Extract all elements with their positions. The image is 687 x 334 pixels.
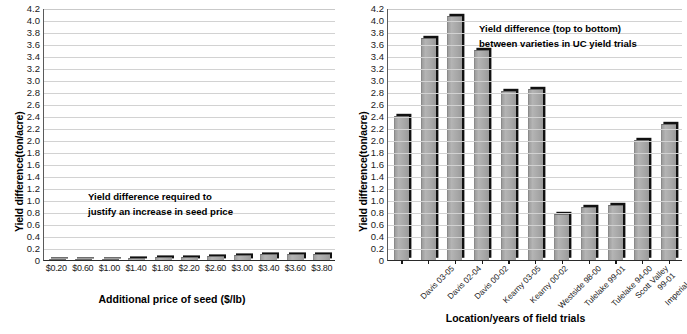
bar-slot xyxy=(309,9,335,260)
annotation-left-line1: Yield difference required to xyxy=(88,190,233,205)
bar[interactable] xyxy=(260,254,277,260)
y-tick-label: 2.4 xyxy=(371,112,384,122)
y-tick-label: 0.8 xyxy=(371,208,384,218)
bar[interactable] xyxy=(581,207,596,260)
y-tick-label: 2.0 xyxy=(371,136,384,146)
bar-slot xyxy=(388,9,415,260)
y-tick-label: 3.8 xyxy=(27,28,40,38)
y-tick-label: 2.0 xyxy=(27,136,40,146)
gridline xyxy=(388,237,682,238)
bar[interactable] xyxy=(181,257,198,260)
y-tick-label: 2.4 xyxy=(27,112,40,122)
gridline xyxy=(388,129,682,130)
gridline xyxy=(44,9,335,10)
bar-slot xyxy=(203,9,229,260)
gridline xyxy=(388,69,682,70)
gridline xyxy=(44,129,335,130)
bar[interactable] xyxy=(634,140,649,260)
gridline xyxy=(388,117,682,118)
x-tick-label: $1.80 xyxy=(149,263,176,273)
y-tick-label: 4.0 xyxy=(371,16,384,26)
x-tick-label: $1.40 xyxy=(123,263,150,273)
y-tick-label: 1.0 xyxy=(371,196,384,206)
y-tick-label: 1.8 xyxy=(371,148,384,158)
bar[interactable] xyxy=(102,259,119,261)
y-tick-label: 3.8 xyxy=(371,28,384,38)
bar-slot xyxy=(123,9,149,260)
y-tick-label: 3.6 xyxy=(371,40,384,50)
bar[interactable] xyxy=(75,259,92,260)
y-tick-label: 1.2 xyxy=(371,184,384,194)
annotation-right-line2: between varieties in UC yield trials xyxy=(479,37,637,52)
y-tick-label: 0.8 xyxy=(27,208,40,218)
x-tick-label: $3.80 xyxy=(308,263,335,273)
bar[interactable] xyxy=(313,254,330,260)
gridline xyxy=(44,165,335,166)
y-tick-label: 2.8 xyxy=(371,88,384,98)
gridline xyxy=(44,177,335,178)
plot-area-left xyxy=(43,9,335,261)
bar-slot xyxy=(655,9,682,260)
bar[interactable] xyxy=(421,38,436,260)
y-axis-ticks-right: 4.24.03.83.63.43.23.02.82.62.42.22.01.81… xyxy=(360,9,384,261)
bar[interactable] xyxy=(234,255,251,260)
bar-slot xyxy=(176,9,202,260)
gridline xyxy=(388,81,682,82)
gridline xyxy=(388,57,682,58)
bar[interactable] xyxy=(128,258,145,260)
x-axis-title-left: Additional price of seed ($/lb) xyxy=(0,293,344,305)
x-tick-label: $0.60 xyxy=(70,263,97,273)
y-tick-label: 0.2 xyxy=(371,244,384,254)
bar-slot xyxy=(282,9,308,260)
gridline xyxy=(44,57,335,58)
y-tick-label: 0 xyxy=(379,256,384,266)
x-axis-labels-left: $0.20$0.60$1.00$1.40$1.80$2.20$2.60$3.00… xyxy=(43,263,335,273)
bar[interactable] xyxy=(155,257,172,260)
y-tick-label: 3.6 xyxy=(27,40,40,50)
gridline xyxy=(388,105,682,106)
gridline xyxy=(44,33,335,34)
bar[interactable] xyxy=(49,259,66,260)
gridline xyxy=(44,105,335,106)
y-tick-label: 3.2 xyxy=(371,64,384,74)
y-tick-label: 4.2 xyxy=(371,4,384,14)
gridline xyxy=(388,93,682,94)
bar-slot xyxy=(44,9,70,260)
y-tick-label: 2.2 xyxy=(27,124,40,134)
gridline xyxy=(388,249,682,250)
bar-slot xyxy=(150,9,176,260)
bar[interactable] xyxy=(528,89,543,260)
bar[interactable] xyxy=(207,256,224,260)
bar-slot xyxy=(97,9,123,260)
y-tick-label: 0.6 xyxy=(27,220,40,230)
bar[interactable] xyxy=(394,116,409,260)
gridline xyxy=(44,93,335,94)
x-tick-label: $3.40 xyxy=(255,263,282,273)
gridline xyxy=(388,189,682,190)
bar-series-left xyxy=(44,9,335,260)
bar-slot xyxy=(70,9,96,260)
gridline xyxy=(388,201,682,202)
y-tick-label: 3.2 xyxy=(27,64,40,74)
x-axis-title-right: Location/years of field trials xyxy=(344,312,687,324)
annotation-left: Yield difference required to justify an … xyxy=(88,190,233,220)
y-tick-label: 1.6 xyxy=(371,160,384,170)
bar[interactable] xyxy=(447,16,462,260)
y-tick-label: 1.8 xyxy=(27,148,40,158)
y-tick-label: 0.4 xyxy=(27,232,40,242)
gridline xyxy=(44,69,335,70)
y-tick-label: 4.0 xyxy=(27,16,40,26)
x-tick-label: $2.60 xyxy=(202,263,229,273)
y-tick-label: 3.4 xyxy=(371,52,384,62)
y-tick-label: 1.4 xyxy=(27,172,40,182)
bar-slot xyxy=(256,9,282,260)
x-tick-label: $0.20 xyxy=(43,263,70,273)
bar-slot xyxy=(441,9,468,260)
bar[interactable] xyxy=(661,124,676,260)
bar-slot xyxy=(229,9,255,260)
gridline xyxy=(388,165,682,166)
bar[interactable] xyxy=(287,254,304,260)
y-tick-label: 3.0 xyxy=(371,76,384,86)
y-tick-label: 0.6 xyxy=(371,220,384,230)
y-tick-label: 3.0 xyxy=(27,76,40,86)
